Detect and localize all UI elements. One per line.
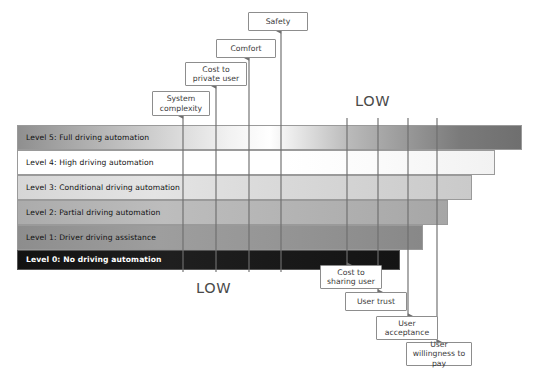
box-comfort[interactable]: Comfort (216, 39, 276, 58)
box-cost-to-sharing-user[interactable]: Cost to sharing user (320, 265, 382, 289)
box-safety[interactable]: Safety (248, 12, 308, 31)
box-user-trust-label: User trust (357, 297, 395, 306)
box-cost-to-sharing-user-label: Cost to sharing user (323, 268, 379, 287)
box-cost-to-private-user[interactable]: Cost to private user (185, 62, 247, 86)
box-comfort-label: Comfort (230, 44, 261, 53)
box-user-willingness-to-pay[interactable]: User willingness to pay (406, 342, 472, 366)
diagram-canvas: Level 5: Full driving automation Level 4… (0, 0, 539, 382)
box-system-complexity-label: System complexity (155, 94, 207, 113)
low-caption-bottom: LOW (196, 280, 231, 296)
box-user-trust[interactable]: User trust (345, 292, 407, 311)
low-caption-top: LOW (355, 93, 390, 109)
box-safety-label: Safety (266, 17, 291, 26)
box-user-acceptance-label: User acceptance (379, 319, 435, 338)
box-cost-to-private-user-label: Cost to private user (188, 65, 244, 84)
box-user-acceptance[interactable]: User acceptance (376, 316, 438, 340)
box-system-complexity[interactable]: System complexity (152, 91, 210, 116)
box-user-willingness-to-pay-label: User willingness to pay (409, 340, 469, 368)
